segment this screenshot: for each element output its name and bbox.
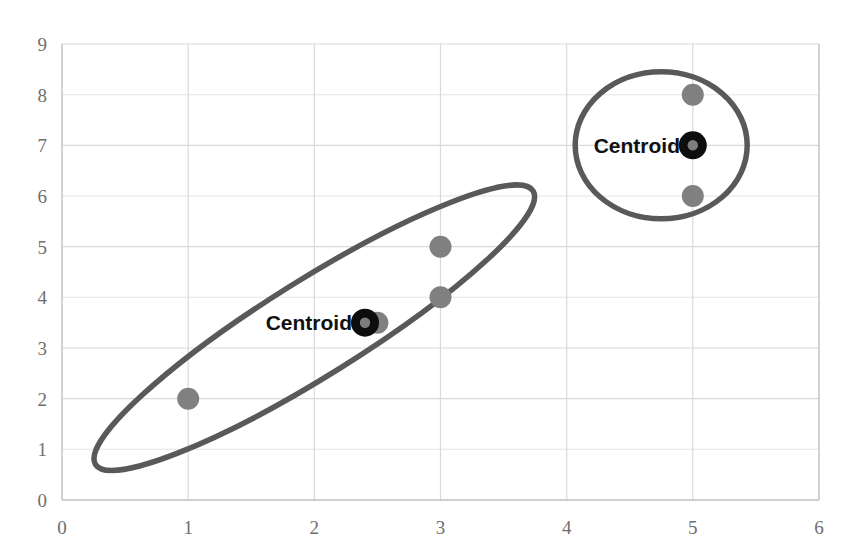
y-tick-6: 6 (38, 186, 48, 207)
scatter-chart: 9 8 7 6 5 4 3 2 1 0 0 1 2 3 4 5 6 (0, 0, 857, 559)
data-point (430, 236, 452, 258)
y-tick-0: 0 (38, 490, 48, 511)
centroid-2-group: Centroid (594, 131, 707, 159)
x-tick-2: 2 (310, 517, 320, 538)
y-tick-9: 9 (38, 34, 48, 55)
data-point (682, 185, 704, 207)
centroid-marker-center (360, 318, 370, 328)
centroid-2-label: Centroid (594, 134, 680, 157)
x-tick-6: 6 (814, 517, 824, 538)
x-axis-tick-labels: 0 1 2 3 4 5 6 (57, 517, 824, 538)
chart-canvas: 9 8 7 6 5 4 3 2 1 0 0 1 2 3 4 5 6 (0, 0, 857, 559)
data-point (177, 388, 199, 410)
x-tick-3: 3 (436, 517, 446, 538)
data-point (430, 286, 452, 308)
y-tick-2: 2 (38, 389, 48, 410)
x-tick-4: 4 (562, 517, 572, 538)
x-tick-0: 0 (57, 517, 67, 538)
y-tick-7: 7 (38, 135, 48, 156)
centroid-1-label: Centroid (266, 311, 352, 334)
centroid-marker-center (688, 140, 698, 150)
y-tick-4: 4 (38, 287, 48, 308)
y-axis-tick-labels: 9 8 7 6 5 4 3 2 1 0 (38, 34, 48, 511)
centroid-1-group: Centroid (266, 309, 379, 337)
y-tick-5: 5 (38, 237, 48, 258)
y-tick-8: 8 (38, 85, 48, 106)
y-tick-1: 1 (38, 439, 48, 460)
x-tick-5: 5 (688, 517, 698, 538)
data-point (682, 84, 704, 106)
y-tick-3: 3 (38, 338, 48, 359)
x-tick-1: 1 (183, 517, 193, 538)
